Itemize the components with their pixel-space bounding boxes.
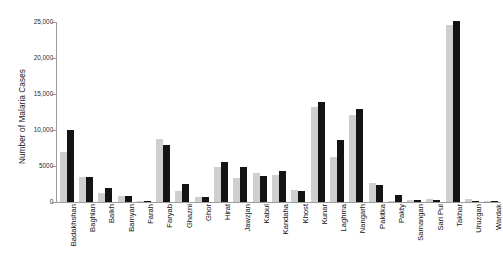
bar-group [404, 22, 423, 202]
bar-group [134, 22, 153, 202]
x-axis-category-label: Pakitka [379, 204, 387, 229]
bar [260, 176, 267, 202]
x-axis-category-label: Wardak [495, 204, 503, 230]
bar [491, 201, 498, 202]
x-axis-category-label: Badakhshan [70, 204, 78, 246]
bar [67, 130, 74, 202]
bar-group [57, 22, 76, 202]
plot-area [57, 22, 501, 202]
bar [156, 139, 163, 202]
bar-group [385, 22, 404, 202]
bar [137, 201, 144, 202]
bar [395, 195, 402, 202]
bar [484, 201, 491, 202]
bar-group [462, 22, 481, 202]
x-axis-category-label: Pakty [398, 204, 406, 223]
bar [253, 173, 260, 202]
bar-group [289, 22, 308, 202]
bar [202, 197, 209, 202]
bar [182, 184, 189, 202]
x-axis-category-label: Balkh [108, 204, 116, 223]
bar [369, 183, 376, 202]
bar-group [96, 22, 115, 202]
bar [175, 191, 182, 202]
bar [233, 178, 240, 202]
x-axis-category-label: Baghlan [89, 204, 97, 232]
bar [79, 177, 86, 202]
bar-series-container [57, 22, 501, 202]
bar [240, 167, 247, 202]
malaria-cases-bar-chart: Number of Malaria Cases 0500010,00015,00… [0, 0, 503, 279]
bar [163, 145, 170, 202]
bar [330, 157, 337, 202]
bar [446, 25, 453, 202]
bar [291, 190, 298, 202]
bar-group [327, 22, 346, 202]
x-axis-category-label: Hirat [224, 204, 232, 220]
y-axis-tick-label: 15,000 [34, 91, 54, 97]
bar [60, 152, 67, 202]
bar [318, 102, 325, 202]
bar-group [366, 22, 385, 202]
x-axis-category-label: Ghor [205, 204, 213, 221]
bar [195, 197, 202, 202]
bar-group [308, 22, 327, 202]
bar-group [424, 22, 443, 202]
bar [298, 191, 305, 202]
bar [98, 193, 105, 202]
y-axis-tick-label: 5000 [39, 163, 53, 169]
x-axis-category-label: Kunar [321, 204, 329, 224]
x-axis-category-label: Khost [302, 204, 310, 223]
bar-group [115, 22, 134, 202]
y-axis-tick-label: 0 [50, 199, 54, 205]
bar-group [269, 22, 288, 202]
bar-group [192, 22, 211, 202]
y-axis-tick-label: 10,000 [34, 127, 54, 133]
x-axis-category-label: Farah [147, 204, 155, 224]
bar-group [173, 22, 192, 202]
x-axis-category-label: Kandaha [282, 204, 290, 234]
bar [453, 21, 460, 202]
bar [337, 140, 344, 202]
x-axis-category-label: Faryab [166, 204, 174, 228]
bar-group [347, 22, 366, 202]
bar-group [443, 22, 462, 202]
bar [388, 201, 395, 202]
x-axis-category-label: Laghma [340, 204, 348, 231]
x-axis-category-label: Ghazni [186, 204, 194, 228]
x-axis-category-label: Nangarh [359, 204, 367, 233]
bar [272, 175, 279, 202]
y-axis-tick-label: 20,000 [34, 55, 54, 61]
bar [407, 200, 414, 202]
x-axis-category-label: Jawzjan [244, 204, 252, 231]
bar [118, 196, 125, 202]
bar [86, 177, 93, 202]
bar [433, 200, 440, 202]
bar-group [250, 22, 269, 202]
bar-group [76, 22, 95, 202]
bar [214, 167, 221, 202]
x-axis-category-label: Samangan [417, 204, 425, 241]
bar [125, 196, 132, 202]
bar-group [154, 22, 173, 202]
bar [311, 107, 318, 202]
bar [279, 171, 286, 202]
bar [414, 200, 421, 202]
x-axis-category-label: Uruzgan [475, 204, 483, 233]
bar [426, 199, 433, 202]
bar [105, 188, 112, 202]
y-axis-title: Number of Malaria Cases [16, 46, 30, 186]
bar [221, 162, 228, 202]
y-axis-tick-label: 25,000 [34, 19, 54, 25]
bar-group [231, 22, 250, 202]
y-axis-title-text: Number of Malaria Cases [19, 68, 28, 163]
x-axis-category-label: Kabul [263, 204, 271, 223]
bar-group [211, 22, 230, 202]
x-axis-category-label: Sari Pul [437, 204, 445, 231]
bar [376, 185, 383, 202]
bar [356, 109, 363, 202]
x-axis-category-labels: BadakhshanBaghlanBalkhBamyanFarahFaryabG… [57, 204, 501, 278]
bar [349, 115, 356, 202]
bar [144, 201, 151, 202]
bar [465, 199, 472, 202]
